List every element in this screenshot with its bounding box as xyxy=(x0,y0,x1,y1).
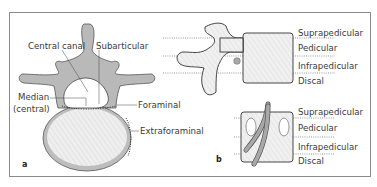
zone-lower-infrapedicular: Infrapedicular xyxy=(298,142,358,152)
panel-label-a: a xyxy=(22,160,27,169)
left-pedicle-oval xyxy=(246,118,256,136)
label-central-canal: Central canal xyxy=(28,41,85,51)
zone-lower-suprapedicular: Suprapedicular xyxy=(298,107,364,117)
zone-lower-pedicular: Pedicular xyxy=(298,123,338,133)
nerve-root-dot xyxy=(234,58,241,65)
zone-upper-infrapedicular: Infrapedicular xyxy=(298,61,358,71)
label-foraminal: Foraminal xyxy=(138,100,181,110)
panel-b-coronal: Suprapedicular Pedicular Infrapedicular … xyxy=(216,104,364,166)
label-extraforaminal: Extraforaminal xyxy=(140,126,204,136)
panel-label-b: b xyxy=(216,155,222,164)
right-pedicle-oval xyxy=(279,118,289,136)
figure-canvas: Central canal Subarticular Median (centr… xyxy=(0,0,377,187)
label-subarticular: Subarticular xyxy=(96,41,149,51)
zone-upper-suprapedicular: Suprapedicular xyxy=(298,28,364,38)
zone-lower-discal: Discal xyxy=(298,156,324,166)
vertebral-body-inner xyxy=(47,108,127,166)
zone-upper-discal: Discal xyxy=(298,76,324,86)
lateral-vertebral-body xyxy=(243,33,293,83)
label-median: Median xyxy=(18,92,49,102)
pedicle-block xyxy=(220,38,243,52)
panel-a: Central canal Subarticular Median (centr… xyxy=(13,24,204,171)
zone-upper-pedicular: Pedicular xyxy=(298,43,338,53)
panel-b-lateral: Suprapedicular Pedicular Infrapedicular … xyxy=(163,23,364,95)
lateral-posterior-elements xyxy=(177,23,243,95)
label-central: (central) xyxy=(13,104,50,114)
